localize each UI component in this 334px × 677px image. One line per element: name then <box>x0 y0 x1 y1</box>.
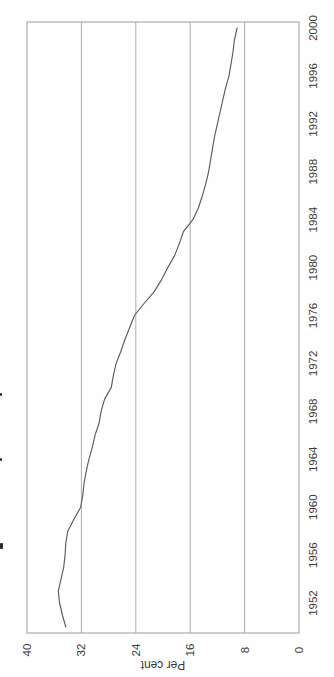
scanned-chart-page: 1952195619601964196819721976198019841988… <box>0 0 334 677</box>
clipped-text-fragment <box>0 543 3 549</box>
value-tick-label: 24 <box>130 643 142 656</box>
year-tick-label: 1960 <box>307 494 319 520</box>
value-tick-label: 16 <box>184 644 196 657</box>
value-tick-label: 32 <box>75 644 87 657</box>
value-tick-label: 0 <box>293 647 305 653</box>
clipped-text-fragment <box>0 393 2 396</box>
year-tick-label: 1952 <box>307 590 319 616</box>
clipped-text-fragment <box>0 458 2 461</box>
year-tick-label: 1976 <box>307 303 319 329</box>
plot-border <box>27 22 299 633</box>
year-tick-label: 1956 <box>307 542 319 568</box>
rotated-line-chart: 1952195619601964196819721976198019841988… <box>0 0 334 677</box>
value-axis-tick-labels: 4032241680 <box>21 643 305 656</box>
year-tick-label: 1984 <box>307 206 319 232</box>
year-tick-label: 2000 <box>307 15 319 41</box>
value-tick-label: 40 <box>21 644 33 657</box>
value-axis-title: Per cent <box>140 658 185 672</box>
value-tick-label: 8 <box>239 647 251 653</box>
year-tick-label: 1996 <box>307 63 319 89</box>
year-axis-tick-labels: 1952195619601964196819721976198019841988… <box>307 15 319 616</box>
year-tick-label: 1992 <box>307 111 319 137</box>
year-tick-label: 1988 <box>307 159 319 185</box>
year-tick-label: 1968 <box>307 399 319 425</box>
year-tick-label: 1964 <box>307 446 319 472</box>
year-tick-label: 1972 <box>307 351 319 377</box>
year-tick-label: 1980 <box>307 255 319 281</box>
data-line-series <box>58 28 237 627</box>
